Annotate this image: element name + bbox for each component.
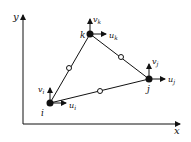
svg-text:j: j	[145, 84, 150, 94]
y-axis-label: y	[12, 11, 19, 22]
svg-text:uk: uk	[109, 31, 118, 41]
svg-text:uj: uj	[168, 75, 175, 86]
triangle-element-diagram: y x i vi ui k vk uk j vj uj	[0, 0, 191, 142]
midside-node-ij	[98, 89, 103, 94]
svg-text:vk: vk	[93, 15, 102, 25]
axes: y x	[12, 11, 180, 136]
svg-text:k: k	[80, 30, 85, 40]
svg-text:ui: ui	[69, 101, 76, 111]
node-j: j vj uj	[145, 57, 175, 94]
x-axis-label: x	[174, 125, 180, 136]
midside-node-ik	[67, 66, 72, 71]
svg-text:i: i	[41, 108, 44, 118]
midside-node-kj	[119, 55, 124, 60]
svg-text:vj: vj	[152, 57, 159, 68]
node-k: k vk uk	[80, 15, 118, 41]
svg-text:vi: vi	[38, 85, 45, 95]
